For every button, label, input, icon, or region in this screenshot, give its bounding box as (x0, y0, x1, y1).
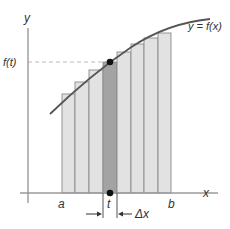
a-label: a (58, 197, 65, 211)
f-t-label: f(t) (3, 56, 17, 68)
rectangle (62, 94, 75, 193)
rectangle (144, 38, 158, 193)
delta-x-label: Δx (134, 207, 150, 221)
b-label: b (168, 197, 175, 211)
t-label: t (107, 197, 111, 211)
curve-label: y = f(x) (187, 20, 222, 32)
y-axis-label: y (23, 11, 31, 25)
riemann-sum-diagram: y x f(t) y = f(x) a t b Δx (0, 0, 230, 229)
x-axis-label: x (202, 186, 210, 200)
rectangle (75, 82, 89, 193)
point-t-on-axis (107, 190, 114, 197)
rectangle (131, 44, 144, 193)
arrow-left-head-icon (118, 212, 123, 217)
rectangle (89, 70, 103, 193)
rectangle (158, 33, 171, 193)
point-t-f-t (107, 59, 114, 66)
highlighted-rectangle (103, 62, 117, 193)
rectangle (117, 52, 131, 193)
arrow-right-head-icon (97, 212, 102, 217)
